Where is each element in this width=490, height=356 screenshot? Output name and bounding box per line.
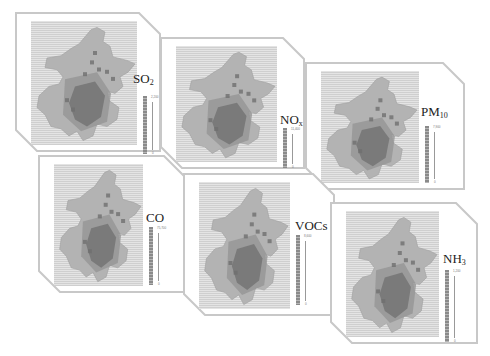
legend-max-value: 11,400 xyxy=(291,127,300,131)
species-label-nh3: NH3 xyxy=(443,252,466,267)
panel-vocs: VOCs8,6000 xyxy=(183,173,335,316)
legend-color-bar xyxy=(296,235,300,305)
panel-so2: SO22,2000 xyxy=(15,12,161,152)
species-name: SO xyxy=(133,71,150,86)
legend-axis-line xyxy=(305,241,306,301)
panel-co: CO75,7000 xyxy=(38,155,186,293)
legend-axis-line xyxy=(158,233,159,281)
legend-min-value: 0 xyxy=(434,180,436,184)
legend-axis-line xyxy=(152,102,153,150)
legend-color-bar xyxy=(143,96,147,154)
color-scale-legend-nh3: 1,2000 xyxy=(445,270,449,342)
legend-min-value: 0 xyxy=(292,165,294,169)
species-name: NH xyxy=(443,251,462,266)
legend-max-value: 75,700 xyxy=(157,226,166,230)
legend-axis-line xyxy=(454,276,455,338)
legend-color-bar xyxy=(283,128,287,168)
color-scale-legend-nox: 11,4000 xyxy=(283,128,287,168)
legend-max-value: 2,200 xyxy=(151,95,159,99)
legend-axis-line xyxy=(292,134,293,164)
legend-max-value: 1,200 xyxy=(453,269,461,273)
species-subscript: 3 xyxy=(462,258,466,267)
legend-color-bar xyxy=(149,227,153,285)
species-subscript: 10 xyxy=(440,111,448,120)
species-label-nox: NOx xyxy=(280,113,303,128)
legend-axis-line xyxy=(434,132,435,179)
legend-max-value: 7,900 xyxy=(433,125,441,129)
species-name: NO xyxy=(280,112,299,127)
species-name: PM xyxy=(421,104,440,119)
legend-min-value: 0 xyxy=(454,339,456,343)
legend-color-bar xyxy=(425,126,429,183)
color-scale-legend-so2: 2,2000 xyxy=(143,96,147,154)
legend-min-value: 0 xyxy=(305,302,307,306)
color-scale-legend-co: 75,7000 xyxy=(149,227,153,285)
species-subscript: 2 xyxy=(150,78,154,87)
panel-nh3: NH31,2000 xyxy=(330,202,478,344)
legend-min-value: 0 xyxy=(158,282,160,286)
panel-pm10: PM107,9000 xyxy=(305,62,465,190)
map-pm10 xyxy=(305,62,465,190)
color-scale-legend-vocs: 8,6000 xyxy=(296,235,300,305)
species-label-so2: SO2 xyxy=(133,72,154,87)
legend-max-value: 8,600 xyxy=(304,234,312,238)
map-vocs xyxy=(183,173,335,316)
species-label-co: CO xyxy=(146,211,164,224)
color-scale-legend-pm10: 7,9000 xyxy=(425,126,429,183)
legend-color-bar xyxy=(445,270,449,342)
species-label-pm10: PM10 xyxy=(421,105,448,120)
species-label-vocs: VOCs xyxy=(295,219,328,232)
species-name: VOCs xyxy=(295,218,328,233)
panel-nox: NOx11,4000 xyxy=(160,37,305,169)
map-nh3 xyxy=(330,202,478,344)
species-name: CO xyxy=(146,210,164,225)
